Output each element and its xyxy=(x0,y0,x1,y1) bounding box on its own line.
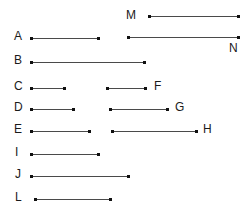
segment-label-g: G xyxy=(175,101,184,113)
segment-endpoint-m-end xyxy=(237,15,240,18)
segment-label-j: J xyxy=(15,168,21,180)
segment-endpoint-l-start xyxy=(34,198,37,201)
segment-endpoint-c-start xyxy=(30,87,33,90)
segment-endpoint-i-end xyxy=(97,153,100,156)
segment-endpoint-a-start xyxy=(30,37,33,40)
segment-endpoint-a-end xyxy=(97,37,100,40)
segment-line-b xyxy=(31,62,144,63)
segment-line-h xyxy=(112,131,196,132)
segment-label-m: M xyxy=(126,9,136,21)
segment-line-i xyxy=(31,154,98,155)
segment-label-i: I xyxy=(15,146,18,158)
segment-endpoint-e-start xyxy=(30,130,33,133)
segment-label-l: L xyxy=(15,191,22,203)
segment-endpoint-b-end xyxy=(143,61,146,64)
segment-label-f: F xyxy=(154,80,161,92)
segment-endpoint-g-start xyxy=(109,108,112,111)
segment-endpoint-f-start xyxy=(106,87,109,90)
segment-endpoint-n-end xyxy=(237,36,240,39)
segment-endpoint-c-end xyxy=(63,87,66,90)
segment-endpoint-j-start xyxy=(30,175,33,178)
segment-endpoint-d-start xyxy=(30,108,33,111)
segment-line-f xyxy=(107,88,145,89)
segment-label-b: B xyxy=(14,54,22,66)
segment-label-n: N xyxy=(229,42,238,54)
segment-endpoint-l-end xyxy=(109,198,112,201)
segment-label-d: D xyxy=(14,101,23,113)
segment-endpoint-h-start xyxy=(111,130,114,133)
segment-line-n xyxy=(128,37,238,38)
segment-endpoint-n-start xyxy=(127,36,130,39)
segment-line-e xyxy=(31,131,89,132)
segment-line-j xyxy=(31,176,128,177)
segment-label-c: C xyxy=(14,80,23,92)
segment-line-a xyxy=(31,38,98,39)
segment-endpoint-g-end xyxy=(166,108,169,111)
segment-endpoint-i-start xyxy=(30,153,33,156)
segment-diagram-canvas: MANBCFDGEHIJL xyxy=(0,0,252,217)
segment-endpoint-h-end xyxy=(195,130,198,133)
segment-endpoint-b-start xyxy=(30,61,33,64)
segment-label-h: H xyxy=(203,123,212,135)
segment-label-a: A xyxy=(14,30,22,42)
segment-line-l xyxy=(35,199,110,200)
segment-endpoint-d-end xyxy=(72,108,75,111)
segment-line-m xyxy=(149,16,238,17)
segment-endpoint-j-end xyxy=(127,175,130,178)
segment-endpoint-e-end xyxy=(88,130,91,133)
segment-endpoint-f-end xyxy=(144,87,147,90)
segment-label-e: E xyxy=(14,123,22,135)
segment-line-g xyxy=(110,109,167,110)
segment-line-c xyxy=(31,88,64,89)
segment-line-d xyxy=(31,109,73,110)
segment-endpoint-m-start xyxy=(148,15,151,18)
